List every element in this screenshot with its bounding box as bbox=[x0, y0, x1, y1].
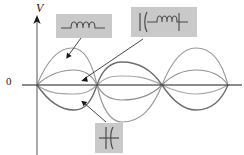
inductor-inset bbox=[56, 14, 112, 38]
y-axis-label: V bbox=[36, 2, 43, 14]
lc-inset bbox=[131, 7, 197, 37]
origin-label: 0 bbox=[6, 76, 12, 87]
curve-capacitor bbox=[37, 62, 228, 110]
arrow-inductor-head bbox=[66, 53, 71, 59]
arrow-lc-line bbox=[84, 39, 143, 79]
inductor-symbol-icon bbox=[56, 14, 112, 38]
arrow-capacitor-line bbox=[84, 103, 106, 122]
capacitor-inductor-series-symbol-icon bbox=[131, 7, 197, 37]
capacitor-symbol-icon bbox=[95, 123, 123, 153]
arrow-inductor-line bbox=[68, 38, 81, 56]
capacitor-inset bbox=[95, 123, 123, 153]
